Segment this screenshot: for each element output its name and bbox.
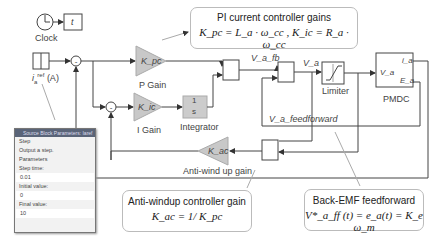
pmdc-label: PMDC [383, 94, 410, 104]
final-value-input[interactable]: 10 [16, 209, 94, 218]
pmdc-output-ea: E_a [400, 76, 414, 85]
initial-value-input[interactable]: 0 [16, 191, 94, 200]
backemf-callout-title: Back-EMF feedforward [305, 195, 423, 206]
dialog-title[interactable]: Source Block Parameters: Iaref [15, 129, 95, 137]
clock-label: Clock [35, 33, 58, 43]
p-gain-symbol: K_pc [141, 56, 162, 66]
svg-text:-: - [75, 57, 78, 66]
pi-gains-callout: PI current controller gains K_pc = L_a ·… [190, 7, 358, 49]
antiwindup-callout: Anti-windup controller gain K_ac = 1/ K_… [122, 190, 252, 232]
antiwindup-gain-label: Anti-wind up gain [183, 166, 252, 176]
signal-va-feedforward: V_a_feedforward [269, 114, 338, 124]
reference-label: iaref (A) [32, 72, 59, 85]
signal-va-fb: V_a_fb [251, 53, 280, 63]
i-gain-label: I Gain [137, 125, 161, 135]
step-time-label: Step time: [15, 164, 95, 173]
integrator-den: s [192, 107, 196, 116]
backemf-callout-formula: V*_a_ff (t) = e_a(t) = K_e ω_m [305, 209, 423, 233]
antiwindup-callout-title: Anti-windup controller gain [123, 196, 251, 207]
backemf-callout: Back-EMF feedforward V*_a_ff (t) = e_a(t… [304, 189, 424, 231]
display-t-label: t [71, 17, 74, 27]
svg-text:-: - [110, 103, 113, 112]
limiter-label: Limiter [322, 86, 349, 96]
antiwindup-gain-symbol: K_ac [208, 146, 229, 156]
pi-callout-title: PI current controller gains [191, 12, 357, 23]
integrator-num: 1 [192, 96, 196, 105]
integrator-label: Integrator [180, 122, 219, 132]
i-gain-symbol: K_ic [138, 102, 156, 112]
antiwindup-callout-formula: K_ac = 1/ K_pc [123, 210, 251, 222]
dialog-description: Output a step. [15, 146, 95, 155]
initial-value-label: Initial value: [15, 182, 95, 191]
signal-va: V_a [303, 58, 319, 68]
block-parameters-dialog[interactable]: Source Block Parameters: Iaref Step Outp… [14, 128, 96, 233]
pi-callout-formula: K_pc = L_a · ω_cc , K_ic = R_a · ω_cc [191, 26, 357, 50]
dialog-block-type: Step [15, 137, 95, 146]
pmdc-output-ia: i_a [402, 56, 413, 65]
step-time-input[interactable]: 0.01 [16, 173, 94, 182]
dialog-section: Parameters [15, 155, 95, 164]
final-value-label: Final value: [15, 200, 95, 209]
pmdc-input-va: V_a [380, 68, 394, 77]
p-gain-label: P Gain [139, 80, 166, 90]
